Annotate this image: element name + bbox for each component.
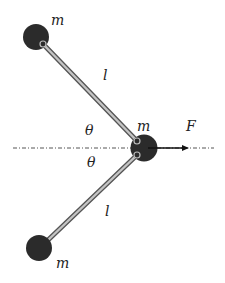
bottom-mass bbox=[26, 235, 52, 261]
force-label: F bbox=[185, 118, 197, 134]
center-hinge-upper bbox=[134, 138, 140, 144]
center-mass-label: m bbox=[137, 118, 150, 134]
pendulum-diagram: m m m l l θ θ F bbox=[0, 0, 225, 283]
upper-rod-length-label: l bbox=[103, 67, 107, 83]
bottom-mass-label: m bbox=[56, 255, 69, 271]
lower-rod-length-label: l bbox=[105, 203, 109, 219]
top-mass-label: m bbox=[51, 12, 64, 28]
top-hinge bbox=[40, 41, 46, 47]
lower-angle-label: θ bbox=[87, 154, 96, 170]
upper-angle-label: θ bbox=[85, 122, 94, 138]
center-hinge-lower bbox=[134, 152, 140, 158]
diagram-svg: m m m l l θ θ F bbox=[0, 0, 225, 283]
